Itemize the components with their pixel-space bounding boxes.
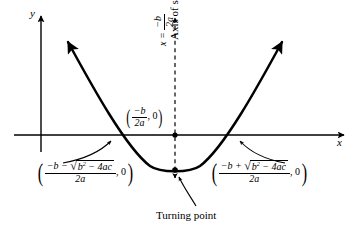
radicand: b2 − 4ac: [76, 160, 114, 173]
open-paren: (: [126, 108, 130, 126]
radicand-rest: − 4ac: [262, 161, 286, 172]
vertex-fraction: −b 2a: [132, 106, 148, 128]
radicand: b2 − 4ac: [250, 160, 288, 173]
axis-equation-fraction: −b 2a: [153, 14, 175, 30]
right-root-denominator: 2a: [219, 174, 290, 185]
vertex-x-intercept-dot: [172, 132, 177, 137]
right-root-coordinate-label: ( −b + √b2 − 4ac 2a , 0): [210, 160, 309, 184]
axis-equation-numerator: −b: [153, 14, 165, 30]
vertex-numerator: −b: [132, 106, 148, 118]
right-root-suffix: , 0: [290, 166, 300, 177]
axis-equation-denominator: 2a: [165, 14, 176, 30]
turning-point-dot: [172, 167, 178, 173]
x-axis-label: x: [337, 137, 342, 148]
right-root-numerator-lead: −b +: [221, 160, 242, 171]
radicand-exponent: 2: [257, 160, 260, 167]
radical: √b2 − 4ac: [70, 160, 114, 173]
y-axis-label: y: [30, 8, 35, 19]
left-root-numerator: −b − √b2 − 4ac: [45, 160, 116, 174]
axis-of-symmetry-equation-label: x = −b 2a: [153, 14, 175, 46]
open-paren: (: [212, 161, 217, 184]
close-paren: ): [128, 161, 133, 184]
left-root-denominator: 2a: [45, 174, 116, 185]
quadratic-parabola-figure: y x Axis of symmetry x = −b 2a ( −b 2a ,…: [0, 0, 358, 233]
left-root-numerator-lead: −b −: [47, 160, 68, 171]
vertex-coordinate-label: ( −b 2a , 0): [125, 106, 164, 128]
right-root-numerator: −b + √b2 − 4ac: [219, 160, 290, 174]
axis-equation-lhs: x =: [157, 32, 168, 46]
turning-point-label: Turning point: [156, 210, 216, 221]
close-paren: ): [159, 108, 163, 126]
left-root-fraction: −b − √b2 − 4ac 2a: [45, 160, 116, 184]
vertex-suffix: , 0: [147, 110, 157, 121]
left-root-suffix: , 0: [116, 166, 126, 177]
vertex-denominator: 2a: [132, 118, 148, 129]
open-paren: (: [38, 161, 43, 184]
radicand-rest: − 4ac: [88, 161, 112, 172]
radicand-exponent: 2: [83, 160, 86, 167]
right-root-fraction: −b + √b2 − 4ac 2a: [219, 160, 290, 184]
left-root-coordinate-label: ( −b − √b2 − 4ac 2a , 0): [36, 160, 135, 184]
close-paren: ): [302, 161, 307, 184]
turning-point-pointer-arrow: [179, 177, 196, 206]
radical: √b2 − 4ac: [244, 160, 288, 173]
